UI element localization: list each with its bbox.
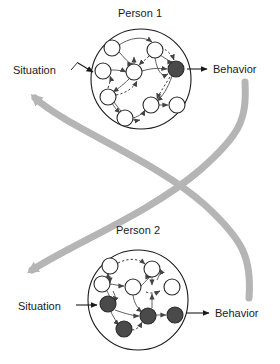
node-inactive (147, 42, 163, 58)
node-inactive (169, 97, 185, 113)
person1-situation-leader (71, 62, 78, 70)
node-active (140, 308, 156, 324)
node-active (168, 61, 184, 77)
node-inactive (104, 40, 120, 56)
person2-situation-label: Situation (18, 300, 61, 312)
node-active (116, 321, 132, 337)
person1-title: Person 1 (118, 7, 162, 19)
figure-canvas: Person 1 Situation Behavior (0, 0, 280, 364)
person1-behavior-label: Behavior (213, 63, 257, 75)
person1-situation-label: Situation (13, 64, 56, 76)
node-active (100, 296, 116, 312)
panel-person2: Person 2 Situation Behavior (18, 224, 259, 350)
node-inactive (102, 258, 118, 274)
node-inactive (100, 89, 116, 105)
person2-behavior-label: Behavior (215, 307, 259, 319)
node-inactive (144, 261, 160, 277)
node-active (167, 307, 183, 323)
node-inactive (125, 279, 141, 295)
person2-title: Person 2 (116, 224, 160, 236)
diagram-svg: Person 1 Situation Behavior (0, 0, 280, 364)
node-inactive (164, 279, 180, 295)
node-inactive (95, 63, 111, 79)
node-inactive (143, 97, 159, 113)
person1-situation-arrow (78, 63, 93, 72)
node-inactive (117, 110, 133, 126)
node-inactive (126, 64, 142, 80)
node-inactive (94, 276, 110, 292)
